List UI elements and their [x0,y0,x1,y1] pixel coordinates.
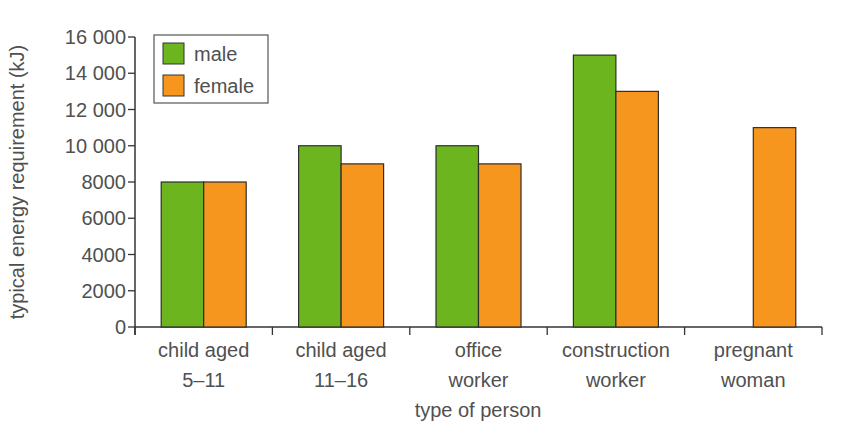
y-axis: 0200040006000800010 00012 00014 00016 00… [65,26,135,338]
x-category-label: child aged [158,339,249,361]
x-category-label: construction [562,339,670,361]
x-category-label: worker [447,369,508,391]
bar-male [161,182,204,327]
y-tick-label: 10 000 [65,135,126,157]
bar-female [341,164,384,327]
y-tick-label: 0 [115,316,126,338]
bar-male [299,146,342,327]
y-tick-label: 16 000 [65,26,126,48]
legend-swatch-female [163,75,184,96]
legend-label-female: female [194,75,254,97]
y-tick-label: 8000 [82,171,127,193]
bar-female [753,128,796,327]
y-tick-label: 4000 [82,244,127,266]
x-category-label: child aged [296,339,387,361]
x-axis-title: type of person [415,399,542,421]
legend-swatch-male [163,43,184,64]
x-category-label: office [455,339,502,361]
x-category-label: pregnant [714,339,793,361]
bar-chart: typical energy requirement (kJ) 02000400… [0,0,842,442]
y-axis-title: typical energy requirement (kJ) [6,45,28,320]
x-category-label: worker [585,369,646,391]
y-tick-label: 2000 [82,280,127,302]
x-category-label: woman [720,369,785,391]
x-axis: child aged5–11child aged11–16officeworke… [135,327,822,391]
bar-male [436,146,479,327]
bar-female [479,164,522,327]
x-category-label: 5–11 [182,369,225,391]
y-tick-label: 14 000 [65,62,126,84]
legend: male female [154,35,268,103]
legend-label-male: male [194,43,237,65]
bar-female [204,182,247,327]
y-axis-title-group: typical energy requirement (kJ) [6,45,28,320]
y-tick-label: 6000 [82,207,127,229]
y-tick-label: 12 000 [65,99,126,121]
bar-male [573,55,616,327]
x-category-label: 11–16 [314,369,368,391]
bar-female [616,91,659,327]
